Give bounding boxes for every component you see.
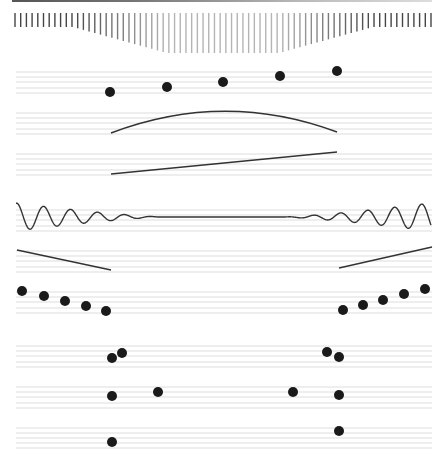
curves	[17, 111, 432, 270]
note-dot	[105, 87, 115, 97]
staff-i	[16, 428, 432, 448]
note-dot	[322, 347, 332, 357]
note-dot	[17, 286, 27, 296]
damped-wave	[16, 203, 431, 229]
staff-b	[16, 113, 432, 134]
note-dot	[399, 289, 409, 299]
note-dot	[39, 291, 49, 301]
wave-path	[16, 203, 431, 229]
rising-line	[111, 152, 337, 174]
note-dot	[358, 300, 368, 310]
staff-c	[16, 154, 432, 175]
staff-h	[16, 387, 432, 408]
note-dot	[288, 387, 298, 397]
staff-f	[16, 292, 432, 313]
arc	[111, 111, 337, 133]
staff-d	[16, 210, 432, 231]
note-dot	[334, 352, 344, 362]
note-dot	[378, 295, 388, 305]
right-rising-line	[339, 247, 432, 268]
note-dot	[81, 301, 91, 311]
note-dot	[101, 306, 111, 316]
note-dot	[334, 426, 344, 436]
note-dot	[107, 437, 117, 447]
note-dot	[334, 390, 344, 400]
staff-lines	[16, 72, 432, 448]
note-dot	[107, 391, 117, 401]
staff-g	[16, 346, 432, 367]
note-dot	[332, 66, 342, 76]
note-dot	[338, 305, 348, 315]
note-dot	[218, 77, 228, 87]
notation-canvas	[0, 0, 446, 462]
note-dot	[60, 296, 70, 306]
note-dot	[107, 353, 117, 363]
note-dot	[162, 82, 172, 92]
note-dot	[117, 348, 127, 358]
note-dot	[420, 284, 430, 294]
tick-comb	[15, 13, 431, 53]
note-dot	[275, 71, 285, 81]
note-dot	[153, 387, 163, 397]
